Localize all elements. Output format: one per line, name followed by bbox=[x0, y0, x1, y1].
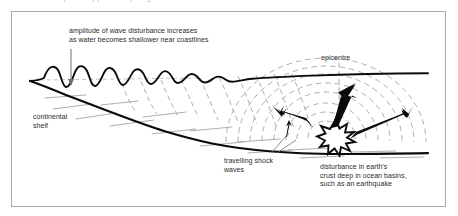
sea-floor-hatching bbox=[45, 95, 424, 158]
label-epicentre: epicentre bbox=[321, 54, 350, 63]
amplitude-pointer-arrow bbox=[68, 49, 74, 86]
label-disturbance: disturbance in earth's crust deep in oce… bbox=[320, 163, 407, 189]
energy-arrow-right bbox=[350, 106, 414, 140]
diagram-page: illustration caption clipped at top edge bbox=[0, 0, 458, 216]
label-travelling-shock-waves: travelling shock waves bbox=[224, 157, 273, 174]
ocean-surface-wave-train bbox=[30, 66, 428, 87]
mean-sea-level-guide bbox=[40, 78, 200, 80]
energy-arrow-up bbox=[331, 83, 358, 128]
label-amplitude: amplitude of wave disturbance increases … bbox=[69, 27, 208, 44]
label-continental-shelf: continental shelf bbox=[33, 113, 67, 130]
wavefront-dashes bbox=[122, 74, 312, 130]
shock-wave-small-arrow bbox=[286, 120, 292, 137]
